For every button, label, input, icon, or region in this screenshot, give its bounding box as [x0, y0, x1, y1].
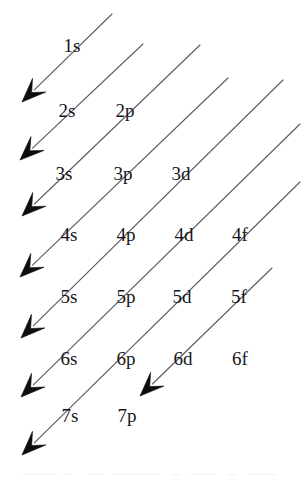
- orbital-label-6f: 6f: [232, 349, 248, 368]
- arrow-2s-shaft: [33, 44, 143, 148]
- arrow-heads-group: [13, 78, 163, 461]
- scan-artifact-4: [172, 474, 180, 475]
- diagonal-arrows-layer: [0, 0, 306, 478]
- orbital-label-4s: 4s: [61, 225, 78, 244]
- orbital-label-7p: 7p: [118, 406, 137, 425]
- orbital-label-4d: 4d: [175, 225, 194, 244]
- orbital-label-5d: 5d: [173, 287, 192, 306]
- orbital-label-6d: 6d: [174, 349, 193, 368]
- orbital-label-2s: 2s: [59, 101, 76, 120]
- orbital-label-6s: 6s: [61, 349, 78, 368]
- orbital-label-3s: 3s: [56, 164, 73, 183]
- aufbau-diagram: 1s2s2p3s3p3d4s4p4d4f5s5p5d5f6s6p6d6f7s7p: [0, 0, 306, 478]
- arrow-4d-5p-6s-shaft: [33, 124, 300, 385]
- scan-artifact-5: [190, 474, 216, 475]
- orbital-label-5p: 5p: [117, 287, 136, 306]
- orbital-label-7s: 7s: [62, 406, 79, 425]
- orbital-label-4p: 4p: [117, 225, 136, 244]
- scan-artifact-0: [22, 474, 56, 475]
- scan-artifact-7: [248, 474, 276, 475]
- orbital-label-3d: 3d: [172, 164, 191, 183]
- orbital-label-6p: 6p: [117, 349, 136, 368]
- orbital-label-5s: 5s: [61, 287, 78, 306]
- orbital-label-4f: 4f: [232, 225, 248, 244]
- arrow-5f-6d-7p-shaft: [152, 268, 272, 384]
- scan-artifact-2: [88, 474, 102, 475]
- orbital-label-5f: 5f: [231, 287, 247, 306]
- orbital-label-2p: 2p: [116, 101, 135, 120]
- scan-artifact-3: [112, 474, 160, 475]
- orbital-label-3p: 3p: [114, 164, 133, 183]
- orbital-label-1s: 1s: [64, 36, 81, 55]
- scan-artifact-6: [228, 474, 236, 475]
- scan-artifact-1: [62, 474, 72, 475]
